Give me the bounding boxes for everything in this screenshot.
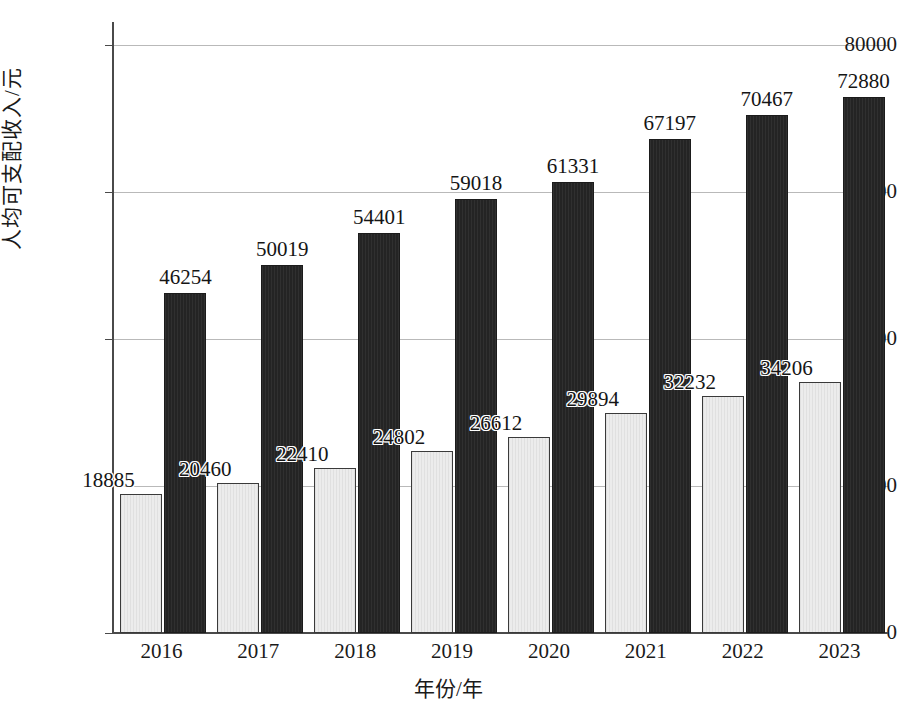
- bar-light-2023: [799, 382, 841, 633]
- value-label-dark-2016: 46254: [135, 267, 235, 288]
- value-label-light-2016: 18885: [57, 470, 159, 491]
- value-label-light-2022: 32232: [639, 372, 741, 393]
- x-tick-label-2021: 2021: [597, 641, 694, 662]
- x-tick-label-2016: 2016: [113, 641, 210, 662]
- value-label-dark-2022: 70467: [717, 89, 817, 110]
- value-label-dark-2018: 54401: [329, 207, 429, 228]
- x-axis-title: 年份/年: [0, 672, 897, 702]
- value-label-dark-2017: 50019: [232, 239, 332, 260]
- bar-dark-2023: [843, 97, 885, 633]
- plot-area: 1888546254204605001922410544012480259018…: [113, 45, 888, 633]
- value-label-dark-2023: 72880: [814, 71, 897, 92]
- bar-light-2020: [508, 437, 550, 633]
- x-tick-label-2018: 2018: [307, 641, 404, 662]
- x-tick-label-2017: 2017: [210, 641, 307, 662]
- value-label-light-2023: 34206: [736, 358, 838, 379]
- x-tick-label-2022: 2022: [694, 641, 791, 662]
- x-tick-label-2023: 2023: [791, 641, 888, 662]
- bar-light-2017: [217, 483, 259, 633]
- bar-light-2022: [702, 396, 744, 633]
- bar-light-2019: [411, 451, 453, 633]
- value-label-light-2019: 24802: [348, 427, 450, 448]
- value-label-dark-2020: 61331: [523, 156, 623, 177]
- value-label-dark-2019: 59018: [426, 173, 526, 194]
- value-label-light-2021: 29894: [542, 389, 644, 410]
- x-tick-label-2019: 2019: [404, 641, 501, 662]
- bar-light-2018: [314, 468, 356, 633]
- value-label-light-2017: 20460: [154, 459, 256, 480]
- bar-chart: 人均可支配收入/元 020000400006000080000 18885462…: [0, 0, 897, 702]
- y-axis-title: 人均可支配收入/元: [0, 50, 25, 250]
- value-label-dark-2021: 67197: [620, 113, 720, 134]
- x-tick-label-2020: 2020: [501, 641, 598, 662]
- bar-light-2016: [120, 494, 162, 633]
- value-label-light-2020: 26612: [445, 413, 547, 434]
- bar-light-2021: [605, 413, 647, 633]
- value-label-light-2018: 22410: [251, 444, 353, 465]
